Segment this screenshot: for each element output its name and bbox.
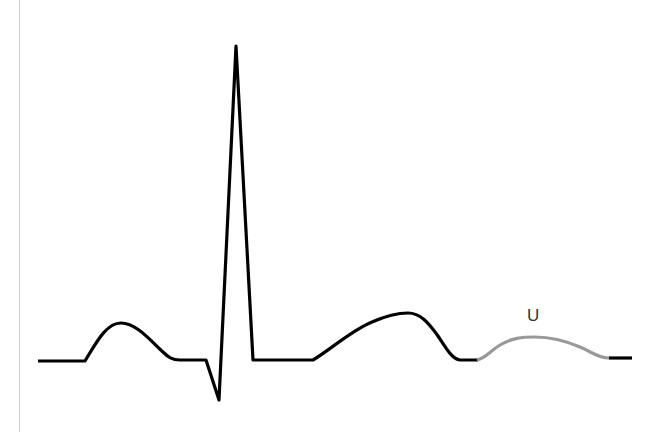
ecg-main-trace: [38, 46, 478, 400]
ecg-trace: [0, 0, 660, 432]
u-wave-trace: [477, 337, 609, 360]
u-wave-label: U: [527, 306, 539, 326]
